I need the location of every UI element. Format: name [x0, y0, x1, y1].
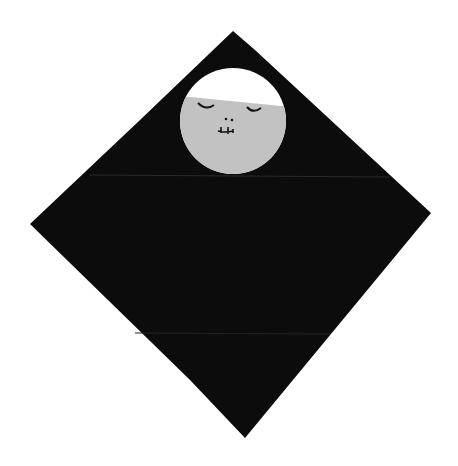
origami-doll — [0, 0, 458, 466]
nose-dot-right — [231, 119, 234, 122]
nose-dot-left — [225, 118, 228, 121]
